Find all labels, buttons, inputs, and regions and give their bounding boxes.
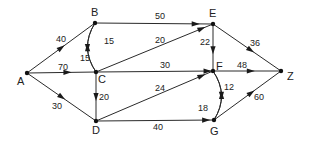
node-label-g: G [210,125,219,137]
node-label-a: A [17,75,25,87]
node-label-b: B [91,6,98,18]
node-label-f: F [216,60,223,72]
edge-c-e-weight-label: 20 [155,35,165,45]
edge-f-g-weight-label: 12 [224,82,234,92]
edge-a-c [27,72,96,73]
edge-c-d-weight-label: 20 [99,92,109,102]
edge-c-b-weight-label: 15 [80,53,90,63]
edge-f-z-weight-label: 48 [237,60,247,70]
edge-b-e-weight-label: 50 [155,11,165,21]
edge-d-f [96,71,213,121]
edge-c-f [96,71,213,72]
node-a [25,71,29,75]
edge-c-e-arrow [197,27,205,32]
edge-b-c-weight-label: 15 [104,36,114,46]
edge-g-f-weight-label: 18 [198,103,208,113]
node-f [211,69,215,73]
edge-a-b-weight-label: 40 [56,34,66,44]
edge-d-g-arrow [202,118,210,123]
edge-a-d-weight-label: 30 [52,101,62,111]
edge-d-g [96,120,214,121]
edge-g-z [214,71,281,120]
edge-a-d-arrow [57,93,65,100]
edge-c-f-weight-label: 30 [160,60,170,70]
edge-e-f-arrow [210,46,215,54]
edge-f-z-arrow [247,68,255,73]
node-b [93,21,97,25]
node-g [212,118,216,122]
node-e [211,22,215,26]
node-z [279,69,283,73]
edge-e-z-weight-label: 36 [250,38,260,48]
edge-c-e [96,24,213,72]
node-d [94,119,98,123]
edge-b-e-arrow [192,21,200,26]
edge-d-f-arrow [197,74,205,80]
node-label-c: C [98,73,106,85]
node-label-d: D [92,124,100,136]
node-label-z: Z [287,70,294,82]
edge-e-f-weight-label: 22 [200,37,210,47]
edge-g-z-weight-label: 60 [254,92,264,102]
node-label-e: E [209,7,216,19]
edge-a-c-weight-label: 70 [58,62,68,72]
edge-d-g-weight-label: 40 [153,122,163,132]
edge-a-b-arrow [57,45,65,52]
edge-d-f-weight-label: 24 [155,83,165,93]
graph-diagram: 4070305015152030202440223648121860ABCDEF… [0,0,311,141]
edge-c-d-arrow [93,93,98,101]
